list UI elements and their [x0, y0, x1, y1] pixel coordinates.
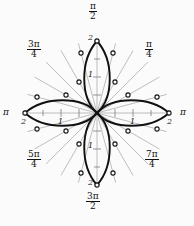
- fraction-denominator: 4: [27, 159, 41, 169]
- data-point: [111, 51, 115, 55]
- angle-label-pi-right: π: [180, 107, 186, 117]
- r-tick-label-right-2: 2: [167, 117, 172, 126]
- fraction-denominator: 2: [89, 11, 97, 21]
- fraction-numerator: 3π: [27, 40, 41, 49]
- angle-label-pi-over-4: π 4: [145, 40, 153, 59]
- data-point: [35, 127, 39, 131]
- angle-label-3pi-over-4: 3π 4: [27, 40, 41, 59]
- angle-label-7pi-over-4: 7π 4: [145, 150, 159, 169]
- data-point: [126, 129, 130, 133]
- data-point: [113, 142, 117, 146]
- data-point: [155, 127, 159, 131]
- fraction-numerator: π: [89, 2, 97, 11]
- data-point: [64, 129, 68, 133]
- data-point: [79, 51, 83, 55]
- r-tick-label-left-2: 2: [21, 117, 26, 126]
- r-tick-label-right-1: 1: [130, 117, 135, 126]
- r-tick-label-bottom-1: 1: [88, 141, 93, 150]
- fraction-denominator: 4: [145, 49, 153, 59]
- angle-label-pi-over-2-top: π 2: [89, 2, 97, 21]
- r-tick-label-top-2: 2: [88, 33, 93, 42]
- fraction-denominator: 4: [145, 159, 159, 169]
- data-point: [77, 80, 81, 84]
- data-point: [23, 111, 27, 115]
- polar-plot-figure: π π π 2 π 4 3π 4 5π 4 7π 4 3π 2 2 1 2 1 …: [0, 0, 194, 226]
- data-point: [113, 80, 117, 84]
- fraction-numerator: 7π: [145, 150, 159, 159]
- fraction-denominator: 4: [27, 49, 41, 59]
- r-tick-label-left-1: 1: [58, 117, 63, 126]
- data-point: [95, 183, 99, 187]
- data-point: [35, 95, 39, 99]
- data-point: [111, 171, 115, 175]
- data-point: [95, 39, 99, 43]
- data-point: [155, 95, 159, 99]
- fraction-numerator: 5π: [27, 150, 41, 159]
- data-point: [77, 142, 81, 146]
- fraction-numerator: 3π: [86, 192, 100, 201]
- fraction-denominator: 2: [86, 201, 100, 211]
- angle-label-pi-left: π: [3, 107, 9, 117]
- fraction-numerator: π: [145, 40, 153, 49]
- data-point: [79, 171, 83, 175]
- data-point: [126, 93, 130, 97]
- r-tick-label-bottom-2: 2: [88, 178, 93, 187]
- data-point: [167, 111, 171, 115]
- data-point: [64, 93, 68, 97]
- angle-label-5pi-over-4: 5π 4: [27, 150, 41, 169]
- angle-label-3pi-over-2-bottom: 3π 2: [86, 192, 100, 211]
- r-tick-label-top-1: 1: [88, 70, 93, 79]
